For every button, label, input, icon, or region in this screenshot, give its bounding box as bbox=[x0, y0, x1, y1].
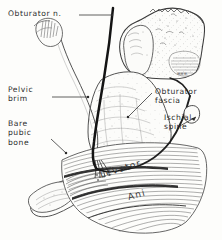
label-ischial-spine-line2: spine bbox=[164, 122, 192, 131]
iliac-fossa-lobe bbox=[124, 25, 154, 75]
label-pelvic-brim-line1: Pelvic bbox=[8, 85, 33, 94]
label-ischial-spine: Ischial spine bbox=[164, 113, 192, 132]
label-bare-pubic-bone-line3: bone bbox=[8, 138, 32, 147]
label-bare-pubic-bone-line1: Bare bbox=[8, 119, 32, 128]
label-obturator-nerve: Obturator n. bbox=[8, 9, 61, 18]
anatomical-illustration: ≡≡≡ bbox=[0, 0, 222, 240]
label-ischial-spine-line1: Ischial bbox=[164, 113, 192, 122]
label-obturator-fascia: Obturator fascia bbox=[155, 87, 197, 106]
leader-dot-bare-pubic-bone bbox=[65, 152, 68, 155]
label-pelvic-brim: Pelvic brim bbox=[8, 85, 33, 104]
label-obturator-fascia-line2: fascia bbox=[155, 96, 197, 105]
label-obturator-fascia-line1: Obturator bbox=[155, 87, 197, 96]
bone-fine-hatch-text: ≡≡≡ bbox=[177, 71, 187, 76]
levator-ani-muscle-sheet bbox=[62, 143, 207, 233]
label-pelvic-brim-line2: brim bbox=[8, 94, 33, 103]
iliopsoas-hatched-wedge bbox=[34, 18, 62, 46]
leader-dot-obturator-fascia bbox=[127, 116, 130, 119]
label-bare-pubic-bone-line2: pubic bbox=[8, 128, 32, 137]
label-obturator-nerve-line1: Obturator n. bbox=[8, 9, 61, 18]
leader-bare-pubic-bone bbox=[51, 139, 66, 153]
label-bare-pubic-bone: Bare pubic bone bbox=[8, 119, 32, 147]
leader-dot-obturator-nerve bbox=[111, 14, 114, 17]
leader-dot-pelvic-brim bbox=[87, 96, 90, 99]
